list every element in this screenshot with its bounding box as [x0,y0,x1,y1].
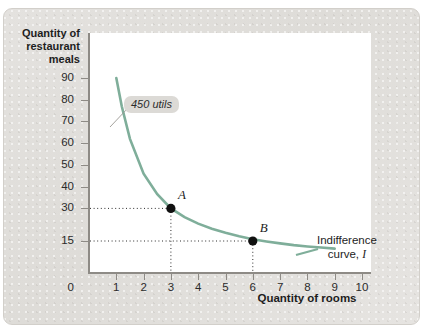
x-tick-label: 6 [238,281,268,293]
y-tick-mark [81,165,88,166]
x-tick-label: 4 [183,281,213,293]
x-tick-mark [335,274,336,280]
x-tick-mark [226,274,227,280]
x-tick-label: 7 [265,281,295,293]
y-axis-line [88,33,90,274]
y-tick-mark [81,143,88,144]
series-label-line-1: Indifference [317,233,377,247]
indifference-curve-figure: Quantity of restaurant meals Quantity of… [0,0,425,332]
y-tick-mark [81,100,88,101]
x-tick-mark [144,274,145,280]
x-axis-title: Quantity of rooms [232,292,382,304]
x-tick-mark [307,274,308,280]
y-tick-label: 30 [34,201,74,213]
x-tick-label: 10 [347,281,377,293]
x-tick-label: 5 [211,281,241,293]
series-label-line-2-text: curve, [328,248,359,260]
y-tick-label: 90 [34,71,74,83]
y-tick-label: 80 [34,93,74,105]
x-tick-mark [116,274,117,280]
y-tick-label: 15 [34,234,74,246]
x-tick-mark [171,274,172,280]
x-tick-label: 8 [292,281,322,293]
origin-label: 0 [34,281,74,293]
series-label-line-2: curve, I [317,247,377,261]
x-tick-mark [362,274,363,280]
y-tick-label: 60 [34,136,74,148]
series-label: Indifference curve, I [317,233,377,261]
x-tick-mark [280,274,281,280]
x-tick-label: 3 [156,281,186,293]
series-label-symbol: I [362,248,366,260]
y-tick-label: 70 [34,114,74,126]
x-tick-label: 1 [101,281,131,293]
y-tick-label: 50 [34,158,74,170]
y-tick-mark [81,187,88,188]
x-tick-label: 2 [129,281,159,293]
x-tick-mark [198,274,199,280]
x-tick-label: 9 [320,281,350,293]
y-tick-mark [81,241,88,242]
y-axis-title-line-3: meals [8,53,80,66]
utils-annotation: 450 utils [124,96,179,113]
x-tick-mark [253,274,254,280]
y-axis-title-line-2: restaurant [8,40,80,53]
x-axis-line [88,272,371,274]
y-tick-mark [81,208,88,209]
y-tick-label: 40 [34,180,74,192]
y-axis-title: Quantity of restaurant meals [8,27,80,66]
data-point-label-b: B [260,220,268,236]
y-tick-mark [81,78,88,79]
data-point-label-a: A [178,187,186,203]
y-tick-mark [81,121,88,122]
y-axis-title-line-1: Quantity of [8,27,80,40]
